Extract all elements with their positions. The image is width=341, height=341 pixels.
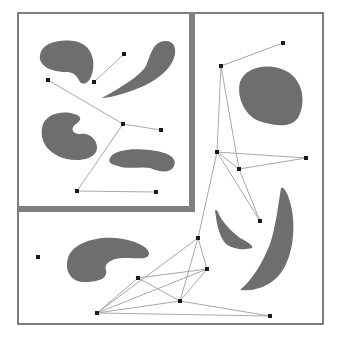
node-n14 [36, 255, 40, 259]
node-n11 [237, 167, 241, 171]
node-n18 [178, 299, 182, 303]
node-n6 [75, 189, 79, 193]
node-n15 [196, 236, 200, 240]
node-n10 [215, 150, 219, 154]
node-n2 [92, 80, 96, 84]
node-n5 [159, 128, 163, 132]
node-n20 [268, 314, 272, 318]
node-n4 [121, 122, 125, 126]
diagram-svg [0, 0, 341, 341]
node-n8 [281, 41, 285, 45]
node-n13 [258, 219, 262, 223]
node-n12 [304, 156, 308, 160]
roadmap-diagram [0, 0, 341, 341]
node-n7 [154, 190, 158, 194]
node-n3 [46, 78, 50, 82]
node-n19 [95, 311, 99, 315]
node-n16 [205, 267, 209, 271]
node-n1 [122, 52, 126, 56]
node-n17 [136, 276, 140, 280]
node-n9 [219, 64, 223, 68]
